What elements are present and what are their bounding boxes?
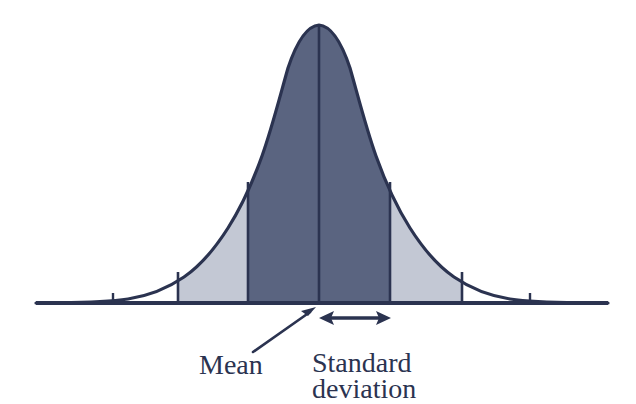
mean-leader-line	[253, 312, 310, 352]
shaded-band-minus-one-sd-to-mean	[248, 0, 319, 303]
mean-arrowhead-icon	[301, 307, 316, 316]
standard-deviation-label-line2: deviation	[312, 373, 416, 404]
normal-distribution-figure: Mean Standard deviation	[0, 0, 636, 404]
shaded-band-mean-to-plus-one-sd	[319, 0, 390, 303]
shaded-band-plus-one-to-plus-two-sd	[390, 0, 462, 303]
distribution-chart-svg: Mean Standard deviation	[0, 0, 636, 404]
shaded-band-minus-two-to-minus-one-sd	[178, 0, 248, 303]
mean-label: Mean	[199, 349, 263, 380]
